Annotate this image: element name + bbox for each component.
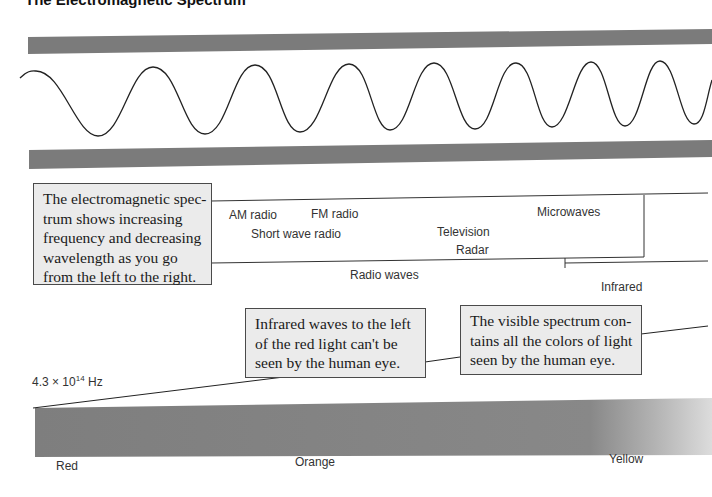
callout-spectrum-overview: The electromagnetic spec- trum shows inc… — [33, 183, 212, 285]
callout-line: The visible spectrum con- — [470, 311, 632, 331]
label-yellow: Yellow — [609, 452, 643, 466]
callout-line: The electromagnetic spec- — [43, 189, 202, 209]
callout-line: tains all the colors of light — [470, 331, 632, 351]
label-am-radio: AM radio — [229, 208, 277, 222]
frequency-label: 4.3 × 1014 Hz — [32, 374, 103, 389]
callout-line: from the left to the right. — [43, 267, 202, 287]
label-orange: Orange — [295, 455, 335, 469]
infrared-bracket-line — [565, 261, 708, 263]
label-fm-radio: FM radio — [311, 207, 358, 221]
callout-line: seen by the human eye. — [255, 353, 416, 373]
label-red: Red — [56, 459, 78, 473]
label-short-wave-radio: Short wave radio — [251, 227, 341, 241]
electromagnetic-wave — [20, 61, 712, 136]
label-infrared: Infrared — [601, 280, 642, 294]
label-radio-waves: Radio waves — [350, 268, 419, 282]
callout-line: seen by the human eye. — [470, 350, 632, 370]
frequency-exponent: 14 — [76, 374, 85, 383]
callout-line: wavelength as you go — [43, 248, 202, 268]
callout-line: Infrared waves to the left — [255, 314, 416, 334]
radio-bottom-line — [211, 257, 644, 263]
top-band — [28, 29, 712, 54]
label-television: Television — [437, 225, 490, 239]
callout-infrared-note: Infrared waves to the left of the red li… — [245, 308, 426, 378]
connector-visible-to-right — [641, 326, 708, 334]
label-microwaves: Microwaves — [537, 205, 600, 219]
frequency-mantissa: 4.3 × 10 — [32, 375, 76, 389]
callout-line: trum shows increasing — [43, 209, 202, 229]
callout-visible-note: The visible spectrum con- tains all the … — [460, 305, 642, 375]
visible-spectrum-bar — [35, 398, 712, 457]
bottom-band — [29, 140, 712, 169]
callout-line: of the red light can't be — [255, 334, 416, 354]
callout-line: frequency and decreasing — [43, 228, 202, 248]
label-radar: Radar — [456, 243, 489, 257]
frequency-unit: Hz — [85, 375, 103, 389]
connector-infrared-to-visible — [425, 357, 460, 362]
radio-top-line — [211, 193, 708, 201]
